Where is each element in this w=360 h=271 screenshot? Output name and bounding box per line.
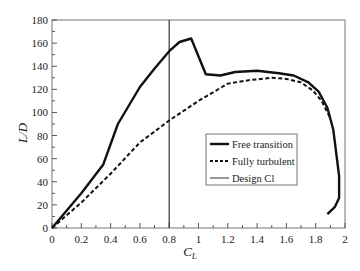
lift-to-drag-chart: 00.20.40.60.811.21.41.61.82 020406080100… <box>0 0 360 271</box>
y-tick-label: 160 <box>32 37 49 49</box>
x-axis-title: CL <box>183 244 197 261</box>
x-tick-label: 0.2 <box>74 233 88 245</box>
axis-ticks <box>52 20 345 228</box>
plot-frame <box>52 20 345 228</box>
legend-label-turbulent: Fully turbulent <box>232 156 295 167</box>
x-tick-label: 0.8 <box>162 233 176 245</box>
y-tick-label: 140 <box>32 60 49 72</box>
legend-label-free: Free transition <box>232 139 294 150</box>
free-transition-curve <box>52 39 339 229</box>
y-tick-label: 0 <box>43 222 49 234</box>
y-tick-label: 40 <box>37 176 49 188</box>
x-tick-label: 1 <box>196 233 202 245</box>
x-tick-label: 1.6 <box>280 233 294 245</box>
x-tick-label: 1.2 <box>221 233 235 245</box>
y-tick-label: 60 <box>37 153 49 165</box>
y-tick-label: 20 <box>37 199 49 211</box>
x-tick-label: 1.8 <box>309 233 323 245</box>
y-tick-label: 120 <box>32 83 49 95</box>
x-tick-label: 1.4 <box>250 233 264 245</box>
legend: Free transition Fully turbulent Design C… <box>206 134 297 185</box>
x-tick-label: 0.6 <box>133 233 147 245</box>
x-tick-label: 2 <box>342 233 348 245</box>
y-tick-label: 180 <box>32 14 49 26</box>
x-tick-label: 0 <box>49 233 55 245</box>
x-tick-label: 0.4 <box>104 233 118 245</box>
y-axis-title: L/D <box>15 122 30 144</box>
y-tick-label: 80 <box>37 130 49 142</box>
x-tick-labels: 00.20.40.60.811.21.41.61.82 <box>49 233 348 245</box>
y-tick-labels: 020406080100120140160180 <box>32 14 49 234</box>
y-tick-label: 100 <box>32 106 49 118</box>
legend-label-design: Design Cl <box>232 173 274 184</box>
